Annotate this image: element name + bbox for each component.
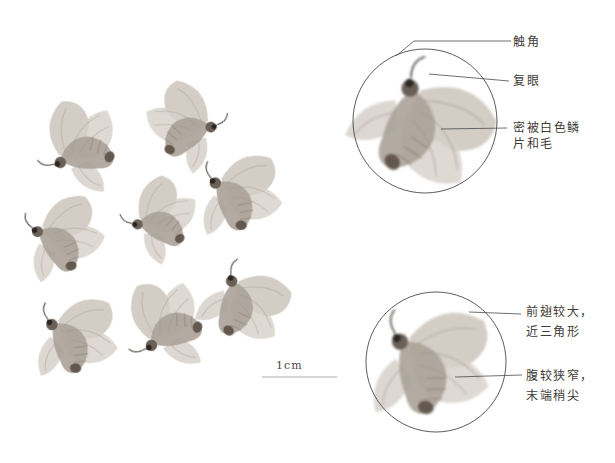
specimen-illustration xyxy=(114,167,215,269)
detail-circle-top xyxy=(338,41,513,220)
specimen-plate: 1cm 触角 复眼 密被白色鳞 片和毛 前翅较大， 近三角形 腹较狭窄， 末端稍… xyxy=(0,0,615,463)
annotation-forewing-line1: 前翅较大， xyxy=(526,306,594,318)
annotation-scales-line2: 片和毛 xyxy=(513,138,554,150)
specimen-illustration xyxy=(119,271,220,369)
specimen-illustration xyxy=(28,88,140,198)
illustration-canvas xyxy=(0,0,615,463)
specimen-illustration xyxy=(200,151,286,241)
specimen-illustration xyxy=(190,251,304,366)
specimen-illustration xyxy=(34,292,124,385)
specimen-illustration xyxy=(131,73,232,176)
scale-bar-label: 1cm xyxy=(276,359,303,372)
detail-specimen-body xyxy=(366,295,505,438)
leader-line-antenna xyxy=(396,41,511,56)
leader-line-compound-eye xyxy=(429,74,509,81)
annotation-abdomen-line2: 末端稍尖 xyxy=(526,390,580,402)
annotation-abdomen-line1: 腹较狭窄， xyxy=(526,370,594,382)
leader-line-forewing xyxy=(469,312,521,314)
specimen-illustration xyxy=(23,193,110,283)
detail-circle-bottom xyxy=(366,292,522,439)
annotation-compound-eye: 复眼 xyxy=(513,75,540,87)
annotation-scales-line1: 密被白色鳞 xyxy=(513,122,581,134)
annotation-antenna: 触角 xyxy=(513,36,540,48)
main-specimen-cluster xyxy=(23,73,304,386)
annotation-forewing-line2: 近三角形 xyxy=(526,326,580,338)
